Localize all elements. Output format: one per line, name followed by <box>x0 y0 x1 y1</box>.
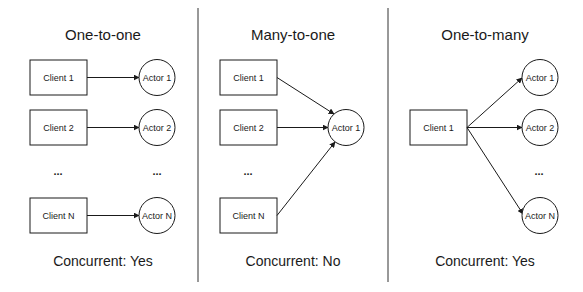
concurrency-label: Concurrent: Yes <box>435 253 535 269</box>
panel-one-to-many: One-to-many Client 1 Actor 1 Actor 2 ...… <box>410 26 558 269</box>
concurrency-label: Concurrent: No <box>246 253 341 269</box>
panel-title: One-to-one <box>65 26 141 43</box>
ellipsis: ... <box>243 165 252 177</box>
actor-label: Actor 2 <box>143 123 172 133</box>
actor-label: Actor 1 <box>143 73 172 83</box>
actor-label: Actor 2 <box>526 123 555 133</box>
panel-one-to-one: One-to-one Client 1 Actor 1 Client 2 Act… <box>30 26 175 269</box>
ellipsis: ... <box>534 165 543 177</box>
client-label: Client N <box>232 211 264 221</box>
panel-title: One-to-many <box>441 26 529 43</box>
actor-label: Actor N <box>525 211 555 221</box>
client-label: Client 2 <box>233 123 264 133</box>
actor-label: Actor N <box>142 211 172 221</box>
concurrency-label: Concurrent: Yes <box>53 253 153 269</box>
client-label: Client 1 <box>43 73 74 83</box>
client-label: Client 1 <box>233 73 264 83</box>
edge-arrow <box>467 78 522 128</box>
actor-patterns-diagram: One-to-one Client 1 Actor 1 Client 2 Act… <box>0 0 583 292</box>
client-label: Client 2 <box>43 123 74 133</box>
actor-label: Actor 1 <box>332 123 361 133</box>
panel-many-to-one: Many-to-one Client 1 Client 2 ... Client… <box>220 26 364 269</box>
edge-arrow <box>277 142 335 216</box>
edge-arrow <box>277 78 334 115</box>
panel-title: Many-to-one <box>251 26 335 43</box>
client-label: Client 1 <box>423 123 454 133</box>
client-label: Client N <box>42 211 74 221</box>
ellipsis: ... <box>152 165 161 177</box>
ellipsis: ... <box>53 165 62 177</box>
actor-label: Actor 1 <box>526 73 555 83</box>
edge-arrow <box>467 128 523 215</box>
